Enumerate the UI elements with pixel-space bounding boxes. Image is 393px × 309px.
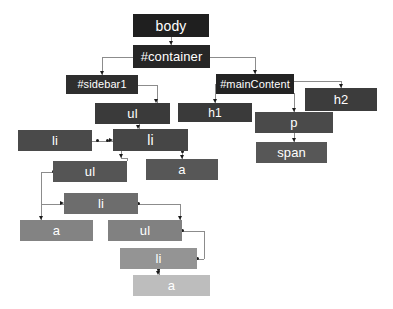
dom-node-li2[interactable]: li bbox=[113, 129, 188, 151]
dom-node-a3[interactable]: a bbox=[133, 275, 210, 296]
edge-ul2-li3-v bbox=[41, 172, 42, 204]
edge-sidebar1-ul1-h bbox=[138, 85, 157, 86]
dom-node-label: a bbox=[53, 224, 60, 237]
dom-tree-diagram: body#container#sidebar1#mainContenth2ulh… bbox=[0, 0, 393, 309]
dom-node-label: a bbox=[178, 163, 185, 176]
dom-node-ul1[interactable]: ul bbox=[95, 103, 170, 124]
dom-node-label: span bbox=[277, 146, 306, 159]
dom-node-label: ul bbox=[85, 165, 95, 178]
dom-node-label: body bbox=[156, 19, 187, 33]
dom-node-label: li bbox=[147, 133, 153, 147]
dom-node-label: li bbox=[156, 252, 162, 265]
edge-ul3-li4-h1 bbox=[182, 231, 204, 232]
dom-node-label: a bbox=[168, 279, 175, 292]
dom-node-body[interactable]: body bbox=[133, 14, 209, 37]
dom-node-label: p bbox=[290, 116, 297, 129]
dom-node-li1[interactable]: li bbox=[18, 130, 92, 151]
edge-li3-ul3-h bbox=[138, 204, 180, 205]
dom-node-label: li bbox=[98, 197, 104, 210]
dom-node-container[interactable]: #container bbox=[133, 45, 210, 68]
edge-ul3-li4-v bbox=[204, 231, 205, 259]
dom-node-label: #mainContent bbox=[220, 79, 290, 90]
dom-node-p[interactable]: p bbox=[255, 112, 333, 133]
dom-node-a2[interactable]: a bbox=[20, 220, 93, 241]
dom-node-label: h1 bbox=[208, 107, 222, 119]
dom-node-ul3[interactable]: ul bbox=[108, 220, 182, 241]
edge-main-h2-h bbox=[294, 81, 341, 82]
dot-li1 bbox=[96, 139, 99, 142]
dom-node-h1[interactable]: h1 bbox=[178, 103, 252, 122]
dom-node-label: ul bbox=[127, 107, 137, 120]
edge-container-main-h bbox=[210, 57, 255, 58]
dom-node-ul2[interactable]: ul bbox=[53, 161, 127, 182]
dom-node-label: ul bbox=[140, 224, 150, 237]
dom-node-sidebar1[interactable]: #sidebar1 bbox=[66, 75, 138, 94]
dom-node-label: #container bbox=[141, 50, 203, 63]
dom-node-h2[interactable]: h2 bbox=[305, 88, 377, 111]
dom-node-li4[interactable]: li bbox=[120, 248, 197, 269]
dom-node-li3[interactable]: li bbox=[64, 193, 138, 214]
arrow-li2-ul2 bbox=[119, 154, 123, 158]
dom-node-span[interactable]: span bbox=[256, 142, 327, 163]
dom-node-label: h2 bbox=[334, 93, 349, 106]
dom-node-label: #sidebar1 bbox=[77, 79, 126, 90]
dom-node-mainContent[interactable]: #mainContent bbox=[216, 74, 294, 94]
edge-li2-ul2-v2 bbox=[127, 158, 128, 161]
dom-node-a1[interactable]: a bbox=[146, 159, 218, 180]
dom-node-label: li bbox=[52, 134, 58, 147]
